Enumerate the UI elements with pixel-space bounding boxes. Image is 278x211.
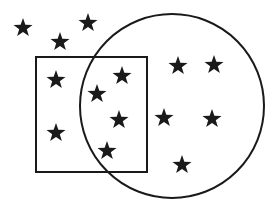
star-icon xyxy=(168,56,187,74)
star-icon xyxy=(112,66,131,84)
star-icon xyxy=(97,141,116,159)
star-icon xyxy=(87,84,106,102)
star-icon xyxy=(109,110,128,128)
star-icon xyxy=(46,123,65,141)
star-icon xyxy=(172,155,191,173)
star-icon xyxy=(13,18,32,36)
stars-group xyxy=(13,13,223,173)
star-icon xyxy=(204,55,223,73)
star-icon xyxy=(78,13,97,31)
circle-set xyxy=(80,14,264,198)
venn-diagram xyxy=(0,0,278,211)
star-icon xyxy=(50,32,69,50)
diagram-canvas xyxy=(0,0,278,211)
star-icon xyxy=(46,70,65,88)
rectangle-set xyxy=(36,57,147,172)
star-icon xyxy=(202,109,221,127)
star-icon xyxy=(154,108,173,126)
